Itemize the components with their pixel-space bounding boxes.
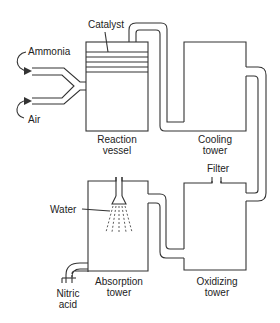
- nitric-acid-label-line2: acid: [50, 299, 86, 310]
- nitric-acid-label: Nitric acid: [50, 288, 86, 310]
- air-label: Air: [28, 114, 40, 125]
- catalyst-layers: [86, 52, 148, 72]
- absorption-tower-label: Absorption tower: [88, 276, 150, 298]
- reaction-vessel-label: Reaction vessel: [92, 134, 142, 156]
- absorption-tower-label-line1: Absorption: [88, 276, 150, 287]
- oxidizing-tower-label-line1: Oxidizing: [186, 276, 248, 287]
- pipe-cooling-to-oxidizing: [246, 67, 266, 201]
- catalyst-label: Catalyst: [88, 19, 124, 30]
- ammonia-label: Ammonia: [28, 46, 70, 57]
- arrowheads: [24, 67, 32, 105]
- water-label: Water: [50, 204, 76, 215]
- pipe-oxidizing-to-absorption: [148, 194, 184, 258]
- cooling-tower-label: Cooling tower: [190, 134, 240, 156]
- reaction-vessel: [86, 42, 148, 131]
- cooling-tower-label-line1: Cooling: [190, 134, 240, 145]
- reaction-vessel-label-line2: vessel: [92, 145, 142, 156]
- absorption-tower-label-line2: tower: [88, 287, 150, 298]
- pipe-reaction-to-cooling: [129, 23, 184, 131]
- ammonia-arrow: [17, 52, 28, 71]
- cooling-tower: [184, 42, 246, 131]
- absorption-tower: [72, 177, 148, 277]
- water-spray: [106, 206, 132, 232]
- oxidizing-tower-label: Oxidizing tower: [186, 276, 248, 298]
- oxidizing-tower: [184, 181, 246, 270]
- oxidizing-tower-label-line2: tower: [186, 287, 248, 298]
- inlet-pipes: [32, 68, 86, 104]
- cooling-tower-label-line2: tower: [190, 145, 240, 156]
- nitric-acid-outlet: [62, 263, 88, 283]
- reaction-vessel-label-line1: Reaction: [92, 134, 142, 145]
- filter-label: Filter: [198, 163, 238, 174]
- nitric-acid-label-line1: Nitric: [50, 288, 86, 299]
- water-pointer: [82, 209, 110, 211]
